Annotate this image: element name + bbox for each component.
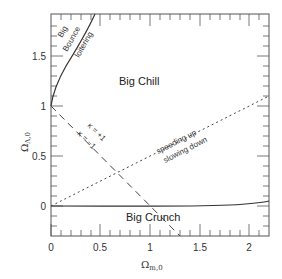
y-ticks-left: [51, 26, 63, 226]
y-tick-label: 1: [40, 101, 46, 112]
x-tick-label: 0: [48, 242, 54, 253]
y-tick-label: 0.5: [32, 151, 46, 162]
x-tick-label: 1: [147, 242, 153, 253]
big-chill-label: Big Chill: [119, 75, 159, 87]
x-ticks-bottom: [51, 224, 259, 236]
y-tick-label: 0: [40, 201, 46, 212]
y-ticks-right: [257, 26, 269, 226]
x-axis-label: Ωm,0: [141, 259, 163, 272]
big-crunch-label: Big Crunch: [126, 211, 180, 223]
chart: 0 0.5 1 1.5 2 0 0.5 1 1.5 Ωm,0 ΩΛ,0 Big …: [0, 0, 282, 279]
x-tick-label: 2: [246, 242, 252, 253]
big-crunch-curve: [51, 201, 269, 206]
y-axis-label: ΩΛ,0: [19, 132, 32, 152]
y-tick-label: 1.5: [32, 51, 46, 62]
x-tick-label: 1.5: [193, 242, 207, 253]
x-tick-label: 0.5: [93, 242, 107, 253]
